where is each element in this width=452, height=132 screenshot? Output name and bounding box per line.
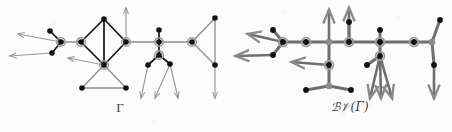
left-graph-edges	[50, 18, 215, 88]
vertex-ringed	[377, 53, 383, 59]
right-graph-caption: ℬ𝒱(Γ)	[295, 100, 405, 115]
vertex-gray	[326, 83, 333, 90]
right-graph-rays	[236, 8, 434, 98]
vertex-plain	[47, 28, 53, 34]
vertex-ringed	[156, 52, 162, 58]
vertex-plain	[156, 27, 162, 33]
vertex-ringed	[156, 39, 162, 45]
figure-canvas: Γ ℬ𝒱(Γ)	[0, 0, 452, 132]
vertex-gray	[429, 39, 436, 46]
graph-edge	[329, 86, 351, 90]
vertex-plain	[270, 27, 276, 33]
vertex-plain	[348, 87, 354, 93]
vertex-plain	[346, 19, 352, 25]
vertex-ringed	[101, 62, 107, 68]
vertex-plain	[212, 62, 218, 68]
vertex-plain	[270, 52, 276, 58]
vertex-plain	[431, 62, 437, 68]
vertex-ringed	[58, 39, 64, 45]
vertex-ringed	[411, 39, 417, 45]
vertex-ringed	[189, 39, 195, 45]
vertex-ringed	[303, 39, 309, 45]
left-graph-rays	[10, 8, 215, 98]
vertex-ringed	[377, 39, 383, 45]
graph-ray-arrow	[155, 64, 170, 98]
vertex-plain	[101, 16, 107, 22]
graph-ray-arrow	[236, 55, 273, 56]
vertex-plain	[212, 15, 218, 21]
vertex-ringed	[346, 39, 352, 45]
graph-edge	[432, 42, 434, 65]
graph-edge	[432, 20, 440, 42]
vertex-plain	[167, 61, 173, 67]
vertex-ringed	[280, 39, 286, 45]
graph-ray-arrow	[10, 53, 52, 56]
vertex-ringed	[78, 39, 84, 45]
vertex-plain	[49, 50, 55, 56]
graph-ray-arrow	[141, 65, 148, 98]
vertex-plain	[303, 87, 309, 93]
vertex-ringed	[123, 39, 129, 45]
vertex-plain	[123, 85, 129, 91]
vertex-plain	[437, 17, 443, 23]
right-graph-vertices	[270, 17, 443, 93]
left-graph-caption: Γ	[80, 100, 160, 116]
graph-ray-arrow	[292, 62, 329, 65]
left-graph-vertices	[47, 15, 218, 91]
graph-edge	[306, 86, 329, 90]
caption-script-bv: ℬ𝒱(Γ)	[331, 100, 369, 114]
vertex-plain	[145, 62, 151, 68]
right-graph-edges	[273, 20, 440, 90]
vertex-plain	[364, 62, 370, 68]
vertex-plain	[377, 27, 383, 33]
vertex-plain	[79, 85, 85, 91]
vertex-ringed	[326, 62, 332, 68]
graph-ray-arrow	[170, 64, 178, 98]
vertex-gray	[326, 39, 333, 46]
